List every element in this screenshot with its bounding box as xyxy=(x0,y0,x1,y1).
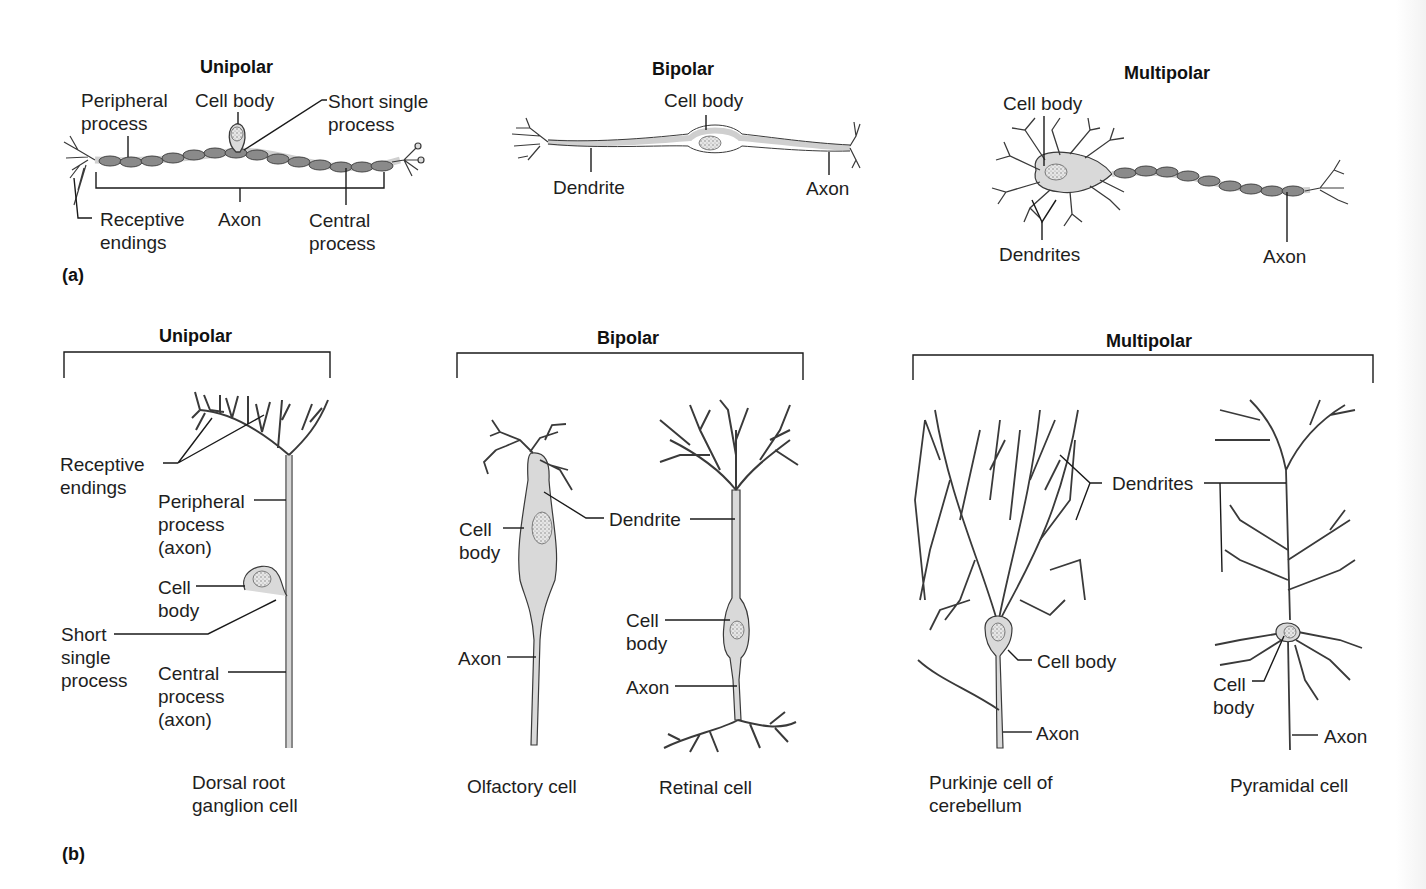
b-uni-central-process-label: Central process (axon) xyxy=(158,662,225,731)
b-caption-pyramidal: Pyramidal cell xyxy=(1230,774,1348,797)
a-uni-peripheral-process-label: Peripheral process xyxy=(81,89,168,135)
b-multipolar-title: Multipolar xyxy=(1106,331,1192,352)
b-purkinje-cell-body-label: Cell body xyxy=(1037,650,1116,673)
a-multi-axon-label: Axon xyxy=(1263,245,1306,268)
a-uni-short-single-process-label: Short single process xyxy=(328,90,428,136)
b-retinal-axon-label: Axon xyxy=(626,676,669,699)
a-bi-axon-label: Axon xyxy=(806,177,849,200)
group-brackets xyxy=(64,352,1373,383)
unipolar-bracket xyxy=(64,352,330,378)
b-uni-short-single-process-label: Short single process xyxy=(61,623,128,692)
bipolar-bracket xyxy=(457,353,803,380)
b-uni-cell-body-label: Cell body xyxy=(158,576,199,622)
b-retinal-cell-body-label: Cell body xyxy=(626,609,667,655)
a-uni-central-process-label: Central process xyxy=(309,209,376,255)
panel-b-tag: (b) xyxy=(62,844,85,865)
b-pyramidal-cell-body-label: Cell body xyxy=(1213,673,1254,719)
a-bi-dendrite-label: Dendrite xyxy=(553,176,625,199)
a-uni-axon-label: Axon xyxy=(218,208,261,231)
b-caption-retinal: Retinal cell xyxy=(659,776,752,799)
b-bipolar-title: Bipolar xyxy=(597,328,659,349)
a-uni-cell-body-label: Cell body xyxy=(195,89,274,112)
b-caption-purkinje: Purkinje cell of cerebellum xyxy=(929,771,1053,817)
panel-a-multipolar-neuron xyxy=(992,116,1348,242)
a-bipolar-title: Bipolar xyxy=(652,59,714,80)
b-uni-caption-dorsal-root: Dorsal root ganglion cell xyxy=(192,771,298,817)
a-multi-dendrites-label: Dendrites xyxy=(999,243,1080,266)
b-multi-dendrites-label: Dendrites xyxy=(1112,472,1193,495)
a-multi-cell-body-label: Cell body xyxy=(1003,92,1082,115)
b-uni-receptive-endings-label: Receptive endings xyxy=(60,453,145,499)
multipolar-bracket xyxy=(913,355,1373,383)
b-caption-olfactory: Olfactory cell xyxy=(467,775,577,798)
panel-a-bipolar-neuron xyxy=(512,115,860,175)
b-uni-peripheral-process-label: Peripheral process (axon) xyxy=(158,490,245,559)
a-multipolar-title: Multipolar xyxy=(1124,63,1210,84)
olfactory-cell xyxy=(484,420,604,745)
a-bi-cell-body-label: Cell body xyxy=(664,89,743,112)
b-pyramidal-axon-label: Axon xyxy=(1324,725,1367,748)
b-unipolar-title: Unipolar xyxy=(159,326,232,347)
b-olfactory-axon-label: Axon xyxy=(458,647,501,670)
a-uni-receptive-endings-label: Receptive endings xyxy=(100,208,185,254)
b-purkinje-axon-label: Axon xyxy=(1036,722,1079,745)
panel-a-tag: (a) xyxy=(62,265,84,286)
receptive-endings-left xyxy=(64,136,95,205)
purkinje-cell xyxy=(915,410,1102,748)
retinal-cell xyxy=(660,400,798,752)
a-unipolar-title: Unipolar xyxy=(200,57,273,78)
neuron-diagram xyxy=(0,0,1426,889)
b-bi-dendrite-label: Dendrite xyxy=(609,508,681,531)
b-olfactory-cell-body-label: Cell body xyxy=(459,518,500,564)
